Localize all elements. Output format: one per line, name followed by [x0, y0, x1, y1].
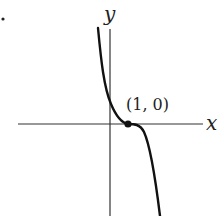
point-label: (1, 0)	[126, 95, 169, 114]
problem-marker	[1, 17, 4, 20]
point-marker	[124, 120, 131, 127]
x-axis-label: x	[206, 111, 217, 135]
y-axis-label: y	[103, 2, 116, 26]
function-graph: y x (1, 0)	[0, 0, 219, 216]
